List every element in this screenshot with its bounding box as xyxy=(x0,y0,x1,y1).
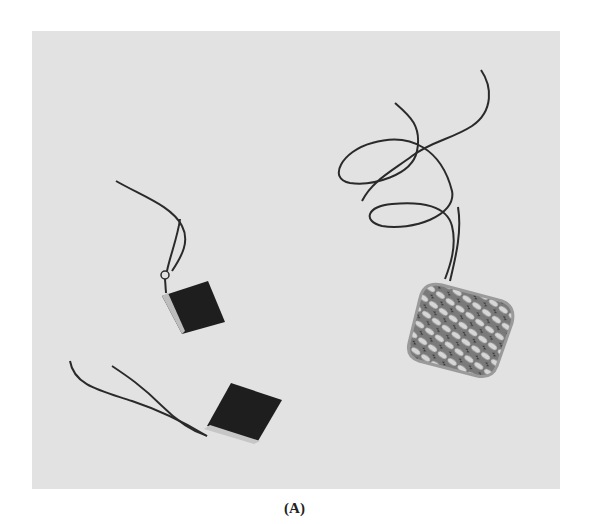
lead-wire xyxy=(339,103,454,279)
lead-wire xyxy=(116,181,185,271)
mesh-module xyxy=(339,70,513,377)
module-body xyxy=(408,284,512,376)
figure-caption: (A) xyxy=(0,500,589,517)
figure-photo xyxy=(32,31,560,489)
lead-wire xyxy=(112,366,207,436)
dark-module-lower xyxy=(70,361,282,444)
lead-wire xyxy=(70,361,207,436)
dark-module-upper xyxy=(116,181,225,334)
figure-illustration xyxy=(32,31,560,489)
